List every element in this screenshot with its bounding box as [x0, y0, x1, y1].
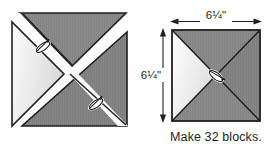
width-arrow-left: [170, 18, 179, 24]
block-left: [12, 13, 128, 126]
height-arrow-bottom: [160, 115, 166, 124]
quilting-diagram: 6¼" 6¼" Make 32 blocks.: [0, 0, 271, 148]
width-dimension: 6¼": [170, 9, 262, 25]
width-dimension-label: 6¼": [206, 9, 226, 21]
caption-make-blocks: Make 32 blocks.: [170, 130, 262, 144]
height-dimension-label: 6¼": [141, 69, 161, 81]
figure-canvas: 6¼" 6¼" Make 32 blocks.: [0, 0, 271, 148]
height-dimension: 6¼": [138, 28, 166, 123]
height-arrow-top: [160, 28, 166, 37]
block-right: [172, 30, 260, 121]
width-arrow-right: [254, 18, 263, 24]
